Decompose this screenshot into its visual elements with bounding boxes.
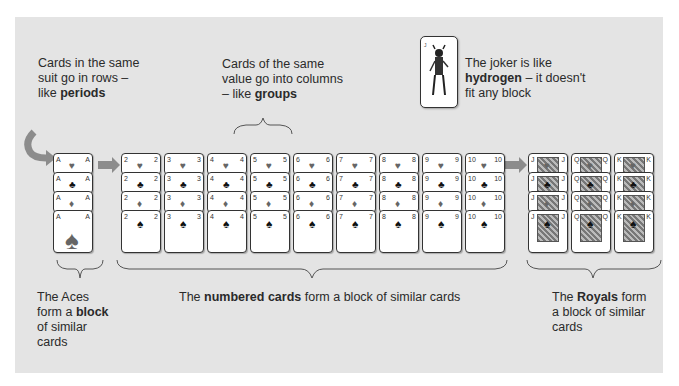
hearts-icon: ♥ [395,161,401,171]
card-index: K [646,213,651,220]
card-index: J [562,156,566,163]
royals-brace-icon [525,258,665,282]
card-4-of-spades: 44♠ [207,210,247,253]
card-index: A [56,175,61,182]
spades-icon: ♠ [395,219,401,229]
card-index: 6 [296,194,300,201]
arrow-to-numbered-icon [98,161,112,169]
card-index: 4 [240,213,244,220]
card-index: 5 [253,156,257,163]
clubs-icon: ♣ [137,180,144,190]
card-index: K [617,156,622,163]
card-3-of-spades: 33♠ [164,210,204,253]
card-index: 5 [253,213,257,220]
card-A-of-spades: AA♠ [53,210,93,253]
card-index: 3 [167,175,171,182]
card-index: 6 [326,194,330,201]
card-9-of-spades: 99♠ [422,210,462,253]
card-index: 5 [283,213,287,220]
hearts-icon: ♥ [69,161,75,171]
card-index: J [562,194,566,201]
diamonds-icon: ♦ [395,199,400,209]
card-index: J [531,213,535,220]
card-index: A [85,156,90,163]
card-index: K [617,194,622,201]
card-index: 2 [154,175,158,182]
card-index: 2 [154,194,158,201]
card-index: K [646,175,651,182]
hearts-icon: ♥ [544,161,550,171]
card-index: 9 [425,175,429,182]
card-index: J [531,156,535,163]
card-index: 7 [339,213,343,220]
spades-icon: ♠ [352,219,358,229]
clubs-icon: ♣ [352,180,359,190]
clubs-icon: ♣ [395,180,402,190]
clubs-icon: ♣ [266,180,273,190]
hearts-icon: ♥ [266,161,272,171]
card-index: 2 [154,156,158,163]
diamonds-icon: ♦ [223,199,228,209]
card-index: A [85,213,90,220]
card-index: K [617,213,622,220]
card-index: K [646,156,651,163]
card-index: 3 [197,213,201,220]
card-2-of-spades: 22♠ [121,210,161,253]
card-index: 9 [455,194,459,201]
card-index: J [531,194,535,201]
card-index: 6 [326,156,330,163]
card-index: 3 [167,194,171,201]
card-index: 6 [326,175,330,182]
card-index: 8 [412,194,416,201]
card-index: 8 [412,156,416,163]
spades-icon: ♠ [65,235,79,245]
spades-icon: ♠ [309,219,315,229]
card-index: 10 [494,194,502,201]
card-index: 7 [369,194,373,201]
diamonds-icon: ♦ [266,199,271,209]
clubs-icon: ♣ [630,180,637,190]
diamonds-icon: ♦ [544,199,549,209]
hearts-icon: ♥ [223,161,229,171]
card-index: 10 [468,156,476,163]
card-index: A [85,175,90,182]
card-index: 5 [253,194,257,201]
hearts-icon: ♥ [309,161,315,171]
card-index: 2 [124,156,128,163]
card-5-of-spades: 55♠ [250,210,290,253]
card-index: Q [574,156,579,163]
clubs-icon: ♣ [481,180,488,190]
hearts-icon: ♥ [630,161,636,171]
diamonds-icon: ♦ [481,199,486,209]
spades-icon: ♠ [544,219,550,229]
card-index: 6 [296,213,300,220]
card-index: Q [574,175,579,182]
joker-caption: The joker is like hydrogen – it doesn't … [465,56,590,101]
card-index: 6 [296,156,300,163]
spades-icon: ♠ [266,219,272,229]
diamonds-icon: ♦ [630,199,635,209]
clubs-icon: ♣ [309,180,316,190]
clubs-icon: ♣ [223,180,230,190]
card-index: 10 [468,213,476,220]
card-index: 4 [240,194,244,201]
card-index: A [56,156,61,163]
card-index: 9 [425,213,429,220]
card-index: Q [603,213,608,220]
card-index: Q [603,194,608,201]
card-index: 3 [197,194,201,201]
card-index: 7 [339,156,343,163]
card-index: 2 [154,213,158,220]
card-index: 6 [326,213,330,220]
spades-icon: ♠ [587,219,593,229]
hearts-icon: ♥ [481,161,487,171]
card-index: 8 [382,175,386,182]
spades-icon: ♠ [481,219,487,229]
diamonds-icon: ♦ [438,199,443,209]
card-index: Q [603,175,608,182]
card-index: 5 [253,175,257,182]
card-index: 9 [455,175,459,182]
joker-figure-icon: J [421,37,457,107]
rows-caption: Cards in the same suit go in rows – like… [38,56,148,101]
card-index: 4 [210,175,214,182]
